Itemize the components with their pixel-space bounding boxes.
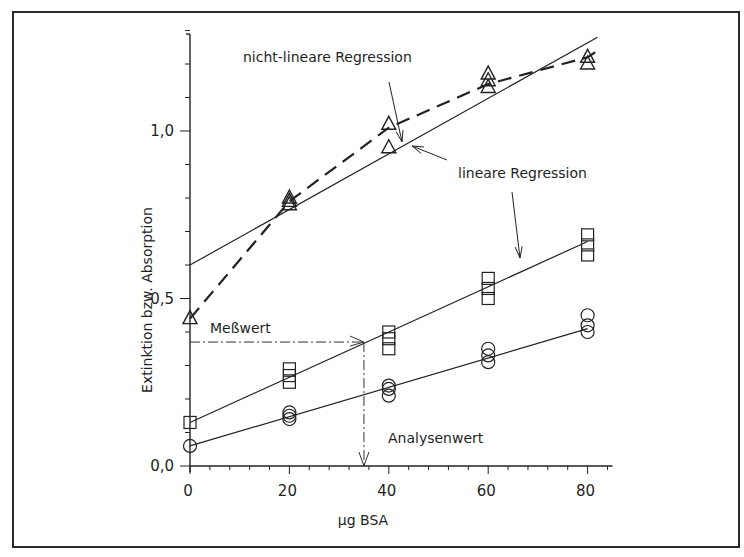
- y-axis-title: Extinktion bzw. Absorption: [139, 207, 155, 393]
- circle-marker: [581, 309, 594, 322]
- y-tick-label: 1,0: [150, 122, 174, 140]
- regression-lines: [190, 37, 598, 466]
- linear-regression-line: [190, 37, 598, 265]
- square-marker: [283, 363, 295, 375]
- annotation-arrow-shaft: [412, 146, 447, 160]
- annotation-linear-regression: lineare Regression: [458, 165, 587, 181]
- x-tick-label: 40: [377, 482, 396, 500]
- chart-plot: 0,00,51,0020406080 nicht-lineare Regress…: [0, 0, 744, 557]
- axes: 0,00,51,0020406080: [150, 31, 612, 501]
- linear-regression-line: [190, 329, 588, 446]
- annotation-arrow-shaft: [389, 82, 402, 142]
- x-tick-label: 80: [576, 482, 595, 500]
- annotations: nicht-lineare Regression lineare Regress…: [210, 49, 587, 446]
- y-tick-label: 0,0: [150, 457, 174, 475]
- annotation-messwert: Meßwert: [210, 320, 271, 336]
- x-tick-label: 0: [183, 482, 193, 500]
- annotation-analysenwert: Analysenwert: [388, 430, 484, 446]
- x-tick-label: 20: [278, 482, 297, 500]
- x-axis-title: µg BSA: [338, 512, 389, 528]
- x-tick-label: 60: [477, 482, 496, 500]
- square-marker: [283, 376, 295, 388]
- nonlinear-regression-curve: [190, 51, 598, 319]
- data-markers: [183, 49, 595, 452]
- annotation-nonlinear-regression: nicht-lineare Regression: [243, 49, 412, 65]
